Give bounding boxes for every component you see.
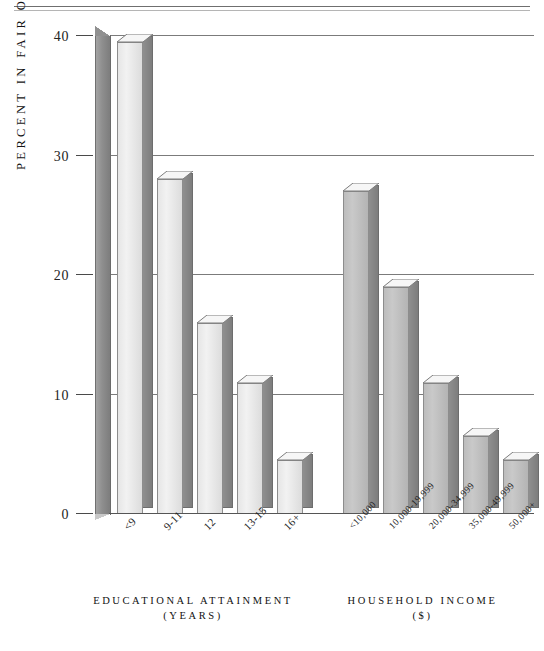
- gridline: [109, 155, 534, 156]
- bar-side-face: [263, 377, 273, 508]
- bar-side-face: [449, 377, 459, 508]
- bar-top-face: [237, 375, 275, 384]
- y-axis-tick: [76, 155, 93, 156]
- bar-top-face: [383, 279, 421, 288]
- group-caption-subtitle: ($): [315, 610, 530, 621]
- bar-front-face: [277, 460, 303, 514]
- group-caption-title: EDUCATIONAL ATTAINMENT: [93, 595, 293, 606]
- bar: [277, 460, 303, 514]
- group-caption: HOUSEHOLD INCOME($): [315, 595, 530, 621]
- bar-top-face: [343, 183, 381, 192]
- bar-front-face: [463, 436, 489, 514]
- bar: [197, 323, 223, 514]
- y-axis-tick-label: 30: [25, 149, 69, 165]
- plot-area: 010203040: [95, 20, 534, 520]
- bar-top-face: [503, 452, 541, 461]
- bar-side-face: [303, 454, 313, 508]
- bar-top-face: [423, 375, 461, 384]
- bar-top-face: [277, 452, 315, 461]
- bar: [117, 42, 143, 514]
- bar: [237, 383, 263, 514]
- bar-front-face: [197, 323, 223, 514]
- bar-side-face: [143, 36, 153, 508]
- bar-front-face: [383, 287, 409, 514]
- axis-wall-cap: [95, 26, 110, 36]
- bar-top-face: [157, 171, 195, 180]
- bar-front-face: [117, 42, 143, 514]
- axis-wall-foot: [95, 514, 110, 520]
- bar-top-face: [117, 34, 155, 43]
- y-axis-tick-label: 20: [25, 268, 69, 284]
- gridline: [109, 35, 534, 36]
- y-axis-title: PERCENT IN FAIR OR POOR HEALTH: [14, 0, 29, 170]
- bar: [383, 287, 409, 514]
- bar: [463, 436, 489, 514]
- bar-side-face: [409, 281, 419, 508]
- y-axis-tick: [76, 513, 93, 514]
- group-caption: EDUCATIONAL ATTAINMENT(YEARS): [78, 595, 308, 621]
- y-axis-tick-label: 0: [25, 507, 69, 523]
- bar-chart-figure: PERCENT IN FAIR OR POOR HEALTH 010203040…: [0, 0, 544, 651]
- group-caption-subtitle: (YEARS): [78, 610, 308, 621]
- y-axis-tick-label: 10: [25, 388, 69, 404]
- y-axis-tick: [76, 35, 93, 36]
- bar-side-face: [183, 173, 193, 508]
- y-axis-tick: [76, 394, 93, 395]
- bar: [157, 179, 183, 514]
- y-axis-tick-label: 40: [25, 29, 69, 45]
- bar-top-face: [197, 315, 235, 324]
- bar-side-face: [369, 185, 379, 508]
- bar-top-face: [463, 428, 501, 437]
- bar-front-face: [343, 191, 369, 514]
- group-caption-title: HOUSEHOLD INCOME: [348, 595, 498, 606]
- bar: [343, 191, 369, 514]
- bar-front-face: [157, 179, 183, 514]
- y-axis-tick: [76, 274, 93, 275]
- bar-front-face: [237, 383, 263, 514]
- bar-side-face: [223, 317, 233, 508]
- axis-back-wall: [95, 35, 111, 515]
